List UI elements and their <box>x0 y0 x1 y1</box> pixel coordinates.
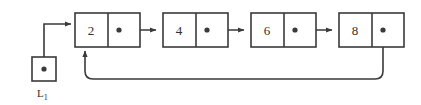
node-4-pointer-dot <box>380 27 385 32</box>
list-node-3[interactable]: 6 <box>251 13 316 47</box>
header-pointer-label: L1 <box>37 87 48 102</box>
linked-list-diagram: 2 4 6 8 <box>0 0 421 105</box>
node-2-pointer-dot <box>204 27 209 32</box>
header-pointer-node[interactable] <box>32 57 56 81</box>
node-3-pointer-dot <box>292 27 297 32</box>
node-4-value: 8 <box>352 23 359 38</box>
node-3-value: 6 <box>264 23 271 38</box>
node-1-pointer-dot <box>116 27 121 32</box>
svg-text:L1: L1 <box>37 87 48 102</box>
list-node-1[interactable]: 2 <box>75 13 140 47</box>
diagram-canvas: 2 4 6 8 <box>0 0 421 105</box>
list-node-4[interactable]: 8 <box>339 13 404 47</box>
header-label-subscript: 1 <box>44 93 48 102</box>
node-1-value: 2 <box>88 23 95 38</box>
list-node-2[interactable]: 4 <box>163 13 228 47</box>
node-2-value: 4 <box>176 23 183 38</box>
header-pointer-dot <box>41 66 46 71</box>
